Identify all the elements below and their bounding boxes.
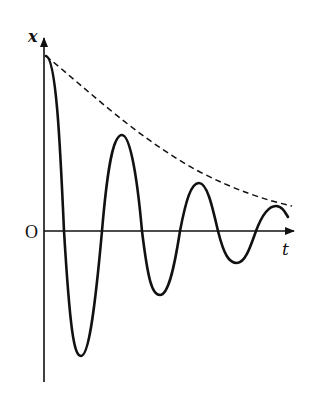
envelope-curve <box>46 56 292 206</box>
t-axis-label: t <box>282 239 289 259</box>
x-axis-label: x <box>27 27 38 46</box>
damped-oscillation-diagram: x t O <box>0 0 320 399</box>
origin-label: O <box>25 222 38 242</box>
oscillation-curve <box>46 56 288 356</box>
